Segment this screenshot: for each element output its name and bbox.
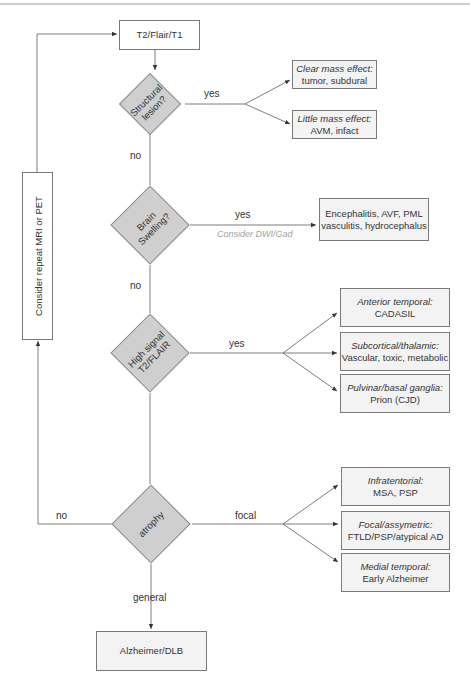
outcome-clear-mass-effect: Clear mass effect: tumor, subdural [292,60,377,89]
edge-label-structural-no: no [130,150,141,161]
loop-box-label: Consider repeat MRI or PET [32,196,43,316]
edge-label-atrophy-focal: focal [235,510,256,521]
outcome-medial-temporal: Medial temporal: Early Alzheimer [341,553,450,592]
edge-label-atrophy-general: general [133,592,166,603]
outcome-alzheimer-dlb: Alzheimer/DLB [96,631,207,671]
outcome-anterior-temporal: Anterior temporal: CADASIL [340,288,450,327]
outcome-encephalitis: Encephalitis, AVF, PML vasculitis, hydro… [319,198,429,241]
edge-label-atrophy-no: no [56,510,67,521]
outcome-little-mass-effect: Little mass effect: AVM, infact [292,110,377,139]
start-box-t2-flair-t1: T2/Flair/T1 [119,20,200,50]
edge-label-swelling-no: no [130,280,141,291]
loop-box-consider-repeat-mri-or-pet: Consider repeat MRI or PET [22,172,53,340]
start-box-label: T2/Flair/T1 [137,29,183,41]
outcome-focal-assymetric: Focal/assymetric: FTLD/PSP/atypical AD [341,511,450,550]
edge-label-high-signal-yes: yes [229,338,245,349]
outcome-pulvinar-basal-ganglia: Pulvinar/basal ganglia: Prion (CJD) [340,374,450,413]
edge-label-structural-yes: yes [204,88,220,99]
edge-hint-consider-dwi-gad: Consider DWI/Gad [217,229,293,239]
outcome-subcortical-thalamic: Subcortical/thalamic: Vascular, toxic, m… [340,332,450,371]
outcome-infratentorial: Infratentorial: MSA, PSP [341,467,450,506]
edge-label-swelling-yes: yes [235,209,251,220]
